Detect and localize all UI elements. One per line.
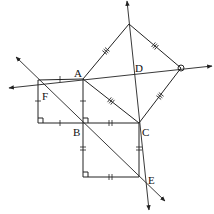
tilted-square — [83, 24, 184, 123]
geometry-diagram: A B C D E F — [0, 0, 214, 214]
line-F-R — [9, 66, 212, 88]
label-F: F — [42, 90, 48, 102]
label-B: B — [73, 126, 80, 138]
label-E: E — [148, 174, 155, 186]
label-D: D — [135, 62, 143, 74]
line-T-E — [127, 1, 149, 210]
right-angle-marker — [38, 118, 43, 123]
right-angle-marker — [83, 172, 88, 177]
label-C: C — [142, 126, 149, 138]
label-A: A — [74, 67, 82, 79]
